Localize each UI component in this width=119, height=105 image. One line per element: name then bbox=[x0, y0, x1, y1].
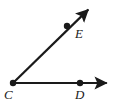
point-label-c: C bbox=[4, 88, 13, 101]
point-dot-c bbox=[10, 80, 16, 86]
angle-diagram-canvas bbox=[0, 0, 119, 105]
point-label-e: E bbox=[75, 27, 83, 40]
angle-diagram: C D E bbox=[0, 0, 119, 105]
point-label-d: D bbox=[75, 88, 84, 101]
ray-ce bbox=[13, 10, 88, 83]
point-dot-d bbox=[77, 80, 83, 86]
point-dot-e bbox=[64, 23, 70, 29]
